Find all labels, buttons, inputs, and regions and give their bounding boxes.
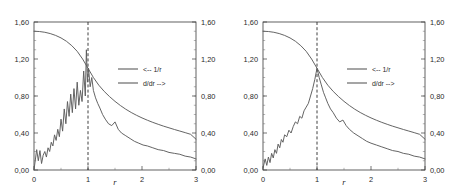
x-axis-label: 0 [32,175,36,184]
legend-label-d-dr: d/dr --> [372,80,394,87]
plot-frame-left [34,22,196,170]
chart-svg-right: 0,000,400,801,201,600,000,400,801,201,60… [229,0,458,193]
x-axis-label: 3 [194,175,198,184]
x-axis-label: 3 [423,175,427,184]
plot-frame-right [263,22,425,170]
chart-panel-right: 0,000,400,801,201,600,000,400,801,201,60… [229,0,458,193]
y-axis-label-left: 1,20 [15,55,29,64]
y-axis-label-left: 0,00 [15,166,29,175]
legend-label-one-over-r: <-- 1/r [372,66,391,73]
y-axis-label-left: 0,40 [244,129,258,138]
y-axis-label-right: 1,60 [430,18,444,27]
x-axis-label: 2 [369,175,373,184]
y-axis-label-left: 0,80 [244,92,258,101]
series-line-d-dr [34,50,196,170]
legend-label-d-dr: d/dr --> [143,80,165,87]
y-axis-label-left: 0,80 [15,92,29,101]
y-axis-label-left: 0,00 [244,166,258,175]
y-axis-label-right: 0,40 [430,129,444,138]
y-axis-label-left: 0,40 [15,129,29,138]
y-axis-label-left: 1,20 [244,55,258,64]
x-axis-label: 1 [315,175,319,184]
y-axis-label-right: 0,40 [201,129,215,138]
series-line-one-over-r [263,31,425,139]
x-axis-title: r [342,178,346,187]
x-axis-title: r [113,178,117,187]
x-axis-label: 0 [261,175,265,184]
y-axis-label-right: 1,20 [201,55,215,64]
y-axis-label-right: 1,20 [430,55,444,64]
y-axis-label-right: 0,80 [430,92,444,101]
y-axis-label-right: 0,00 [430,166,444,175]
legend-label-one-over-r: <-- 1/r [143,66,162,73]
y-axis-label-right: 0,80 [201,92,215,101]
y-axis-label-left: 1,60 [15,18,29,27]
x-axis-label: 2 [140,175,144,184]
series-line-d-dr [263,68,425,168]
y-axis-label-right: 1,60 [201,18,215,27]
chart-svg-left: 0,000,400,801,201,600,000,400,801,201,60… [0,0,229,193]
chart-panel-left: 0,000,400,801,201,600,000,400,801,201,60… [0,0,229,193]
y-axis-label-left: 1,60 [244,18,258,27]
y-axis-label-right: 0,00 [201,166,215,175]
x-axis-label: 1 [86,175,90,184]
dual-panel-figure: 0,000,400,801,201,600,000,400,801,201,60… [0,0,458,193]
